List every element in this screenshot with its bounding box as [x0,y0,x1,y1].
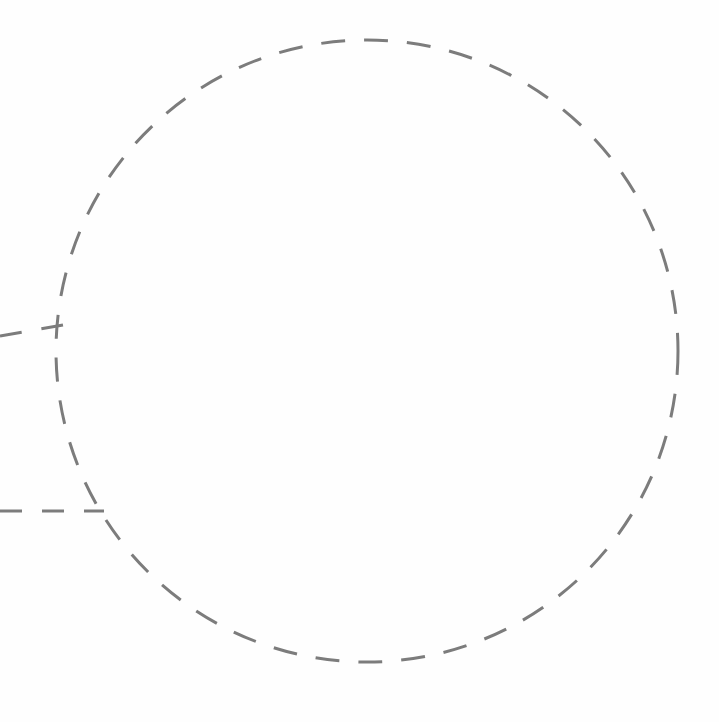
diagram-canvas [0,0,719,722]
canvas-background [0,0,719,722]
diagram-svg [0,0,719,722]
